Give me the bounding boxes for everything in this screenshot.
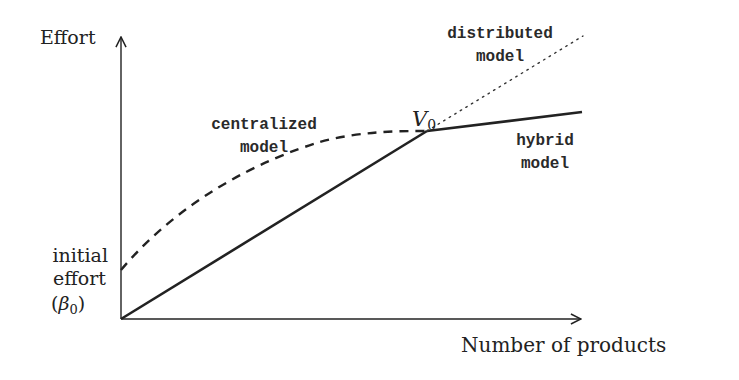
x-axis-label: Number of products	[461, 333, 666, 357]
beta0-label: (β0)	[51, 292, 85, 317]
centralized-model-label-line1: centralized	[211, 116, 317, 134]
initial-effort-label-line2: effort	[53, 267, 106, 289]
v0-label: V0	[412, 107, 436, 133]
hybrid-model-label-line2: model	[521, 155, 569, 173]
y-axis-label: Effort	[40, 26, 96, 48]
distributed-model-label-line2: model	[476, 48, 524, 66]
initial-effort-label-line1: initial	[52, 244, 108, 266]
centralized-model-label-line2: model	[240, 139, 288, 157]
effort-diagram: Effort Number of products initial effort…	[0, 0, 739, 380]
hybrid-model-label-line1: hybrid	[516, 132, 574, 150]
distributed-model-label-line1: distributed	[447, 25, 553, 43]
hybrid-model-line	[427, 112, 582, 131]
